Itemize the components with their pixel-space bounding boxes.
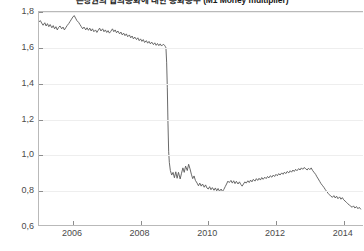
gridline-y <box>39 12 363 13</box>
x-tick-mark <box>141 221 142 225</box>
chart-container: 은행권의 협의통화에 대한 통화승수 (M1 Money multiplier)… <box>0 0 364 251</box>
chart-title: 은행권의 협의통화에 대한 통화승수 (M1 Money multiplier) <box>0 0 364 6</box>
y-tick-label: 1,0 <box>4 149 34 159</box>
y-tick-label: 1,8 <box>4 6 34 16</box>
x-tick-mark <box>276 221 277 225</box>
plot-area <box>38 11 363 226</box>
x-tick-mark <box>208 221 209 225</box>
y-tick-label: 1,6 <box>4 42 34 52</box>
gridline-y <box>39 120 363 121</box>
y-tick-label: 1,2 <box>4 114 34 124</box>
y-axis-labels: 1,81,61,41,21,00,80,6 <box>0 11 34 226</box>
y-tick-label: 0,8 <box>4 185 34 195</box>
gridline-y <box>39 191 363 192</box>
y-tick-mark <box>39 48 43 49</box>
y-tick-mark <box>39 84 43 85</box>
y-tick-mark <box>39 191 43 192</box>
x-tick-label: 2006 <box>62 228 82 239</box>
plot-inner <box>39 12 363 225</box>
gridline-y <box>39 84 363 85</box>
x-tick-label: 2008 <box>130 228 150 239</box>
gridline-y <box>39 155 363 156</box>
x-axis-labels: 20062008201020122014 <box>38 228 363 244</box>
y-tick-label: 1,4 <box>4 78 34 88</box>
x-tick-label: 2014 <box>333 228 353 239</box>
y-tick-mark <box>39 155 43 156</box>
x-tick-label: 2012 <box>265 228 285 239</box>
y-tick-label: 0,6 <box>4 221 34 231</box>
gridline-y <box>39 48 363 49</box>
x-tick-label: 2010 <box>197 228 217 239</box>
x-tick-mark <box>344 221 345 225</box>
x-tick-mark <box>73 221 74 225</box>
series-m1-money-multiplier <box>39 16 361 210</box>
y-tick-mark <box>39 12 43 13</box>
y-tick-mark <box>39 120 43 121</box>
